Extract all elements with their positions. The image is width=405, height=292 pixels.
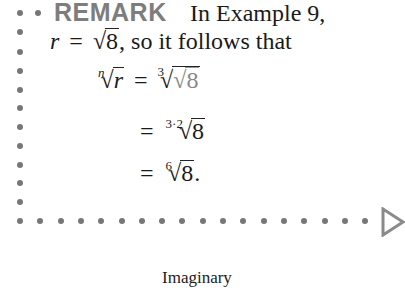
border-dot: [17, 124, 23, 130]
border-dot: [240, 218, 246, 224]
period: .: [194, 160, 200, 186]
equals-sign: =: [134, 67, 148, 93]
border-dot: [17, 10, 23, 16]
border-dot: [322, 218, 328, 224]
root-index: 3: [158, 64, 165, 79]
equation-2: = 3·2√8: [140, 118, 205, 145]
border-dot: [281, 218, 287, 224]
root-index: 6: [166, 158, 173, 173]
radicand: 8: [180, 160, 194, 185]
nth-root-r: n√r: [98, 67, 124, 94]
border-dot: [220, 218, 226, 224]
border-dot: [17, 29, 23, 35]
border-dot: [17, 105, 23, 111]
border-dot: [35, 10, 41, 16]
border-dot: [342, 218, 348, 224]
border-dot: [17, 49, 23, 55]
radicand: 8: [105, 28, 119, 53]
border-dot: [98, 218, 104, 224]
root-3x2-of-8: 3·2√8: [166, 118, 206, 145]
border-dot: [179, 218, 185, 224]
border-dot: [362, 218, 368, 224]
border-dot: [159, 218, 165, 224]
border-dot: [37, 218, 43, 224]
border-dot: [17, 162, 23, 168]
cube-root-sqrt-8: 3√√8: [158, 66, 201, 94]
border-dot: [17, 68, 23, 74]
border-dot: [17, 87, 23, 93]
equals-sign: =: [140, 118, 154, 144]
border-dot: [17, 143, 23, 149]
border-dot: [301, 218, 307, 224]
caption-imaginary: Imaginary: [162, 268, 232, 288]
root-index: 3·2: [166, 116, 183, 131]
sqrt-8: √8: [93, 28, 119, 55]
var-r: r: [50, 28, 59, 54]
radicand: 8: [185, 67, 199, 92]
remark-label: REMARK: [54, 0, 167, 27]
remark-intro: In Example 9,: [190, 0, 325, 27]
border-dot: [17, 218, 23, 224]
border-dot: [58, 218, 64, 224]
equals-sign: =: [69, 28, 83, 54]
line-2-rest: , so it follows that: [119, 28, 292, 54]
radicand: 8: [191, 118, 205, 143]
border-dot: [17, 180, 23, 186]
equals-sign: =: [140, 160, 154, 186]
triangle-arrow-icon: [381, 207, 405, 237]
border-dot: [139, 218, 145, 224]
equation-1: n√r = 3√√8: [98, 66, 200, 94]
sixth-root-8: 6√8: [166, 160, 195, 187]
border-dot: [200, 218, 206, 224]
border-dot: [119, 218, 125, 224]
remark-line-2: r = √8, so it follows that: [50, 28, 292, 55]
border-dot: [78, 218, 84, 224]
radicand: r: [113, 67, 124, 92]
equation-3: = 6√8.: [140, 160, 200, 187]
root-index: n: [98, 65, 105, 80]
border-dot: [17, 199, 23, 205]
border-dot: [261, 218, 267, 224]
